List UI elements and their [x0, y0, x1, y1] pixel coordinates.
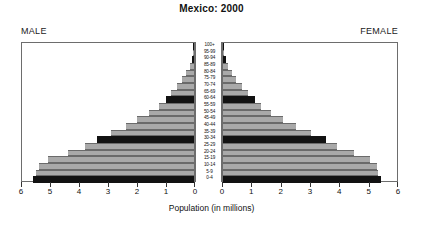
bar-row-male: [22, 103, 194, 110]
age-group-label: 40-44: [196, 122, 223, 129]
bar-male-20-24: [68, 150, 194, 157]
bar-male-15-19: [48, 156, 194, 163]
age-group-label: 75-79: [196, 75, 223, 82]
bar-row-female: [223, 70, 397, 77]
bar-row-female: [223, 76, 397, 83]
bar-female-90-94: [223, 56, 226, 63]
bar-row-male: [22, 163, 194, 170]
female-x-tick-labels: 0123456: [222, 187, 398, 201]
bar-row-female: [223, 143, 397, 150]
bar-row-male: [22, 96, 194, 103]
bar-row-male: [22, 150, 194, 157]
age-group-label: 85-89: [196, 62, 223, 69]
bar-male-95-99: [193, 50, 194, 57]
bar-male-25-29: [85, 143, 194, 150]
bar-female-50-54: [223, 110, 271, 117]
bar-row-male: [22, 130, 194, 137]
bar-female-70-74: [223, 83, 242, 90]
bar-female-65-69: [223, 90, 248, 97]
female-bars: [223, 43, 397, 181]
age-group-label: 0-4: [196, 175, 223, 182]
age-group-label: 95-99: [196, 49, 223, 56]
bar-row-male: [22, 110, 194, 117]
bar-row-female: [223, 150, 397, 157]
x-tick-label: 3: [300, 187, 320, 196]
bar-male-65-69: [171, 90, 194, 97]
female-panel-label: FEMALE: [360, 26, 398, 36]
x-tick-label: 0: [212, 187, 232, 196]
bar-row-female: [223, 96, 397, 103]
age-group-label: 100+: [196, 42, 223, 49]
bar-male-80-84: [186, 70, 194, 77]
age-group-label: 20-24: [196, 149, 223, 156]
bar-female-20-24: [223, 150, 354, 157]
x-tick-label: 0: [185, 187, 205, 196]
bar-male-40-44: [126, 123, 194, 130]
age-group-label: 15-19: [196, 155, 223, 162]
age-group-label: 65-69: [196, 89, 223, 96]
age-group-label: 60-64: [196, 95, 223, 102]
bar-female-100+: [223, 43, 224, 50]
age-group-label: 30-34: [196, 135, 223, 142]
bar-male-100+: [193, 43, 194, 50]
x-tick-label: 6: [388, 187, 408, 196]
bar-female-45-49: [223, 116, 283, 123]
bar-row-female: [223, 83, 397, 90]
bar-row-male: [22, 43, 194, 50]
bar-male-75-79: [182, 76, 194, 83]
bar-male-10-14: [39, 163, 194, 170]
bar-row-female: [223, 56, 397, 63]
bar-male-50-54: [149, 110, 194, 117]
x-axis-title: Population (in millions): [0, 203, 423, 213]
age-group-label: 5-9: [196, 169, 223, 176]
bar-row-female: [223, 123, 397, 130]
chart-title: Mexico: 2000: [0, 3, 423, 14]
age-group-label: 70-74: [196, 82, 223, 89]
bar-female-55-59: [223, 103, 261, 110]
population-pyramid-chart: Mexico: 2000 MALE FEMALE 0-45-910-1415-1…: [0, 0, 423, 229]
bar-male-90-94: [192, 56, 194, 63]
x-tick-label: 5: [40, 187, 60, 196]
x-tick-label: 5: [359, 187, 379, 196]
bar-row-male: [22, 143, 194, 150]
bar-male-30-34: [97, 136, 194, 143]
bar-row-male: [22, 156, 194, 163]
bar-male-45-49: [137, 116, 194, 123]
bar-row-female: [223, 43, 397, 50]
bar-row-male: [22, 83, 194, 90]
x-tick-label: 2: [271, 187, 291, 196]
bar-female-80-84: [223, 70, 232, 77]
bar-row-male: [22, 90, 194, 97]
bar-row-female: [223, 156, 397, 163]
bar-row-female: [223, 103, 397, 110]
bar-row-female: [223, 63, 397, 70]
bar-row-male: [22, 50, 194, 57]
x-tick-label: 4: [329, 187, 349, 196]
x-tick-label: 1: [156, 187, 176, 196]
bar-male-5-9: [36, 170, 194, 177]
x-tick-label: 2: [127, 187, 147, 196]
bar-row-female: [223, 136, 397, 143]
bar-row-male: [22, 70, 194, 77]
female-plot-panel: [222, 42, 398, 182]
x-tick-label: 3: [98, 187, 118, 196]
bar-row-male: [22, 116, 194, 123]
age-group-axis: 0-45-910-1415-1920-2425-2930-3435-3940-4…: [195, 42, 222, 182]
bar-row-female: [223, 116, 397, 123]
bar-row-male: [22, 56, 194, 63]
age-group-label: 50-54: [196, 109, 223, 116]
x-tick-label: 4: [69, 187, 89, 196]
bar-row-female: [223, 110, 397, 117]
bar-row-male: [22, 170, 194, 177]
bar-row-female: [223, 163, 397, 170]
age-group-label: 45-49: [196, 115, 223, 122]
bar-row-male: [22, 63, 194, 70]
bar-female-40-44: [223, 123, 296, 130]
bar-female-15-19: [223, 156, 370, 163]
bar-female-25-29: [223, 143, 337, 150]
bar-female-5-9: [223, 170, 378, 177]
age-group-label: 10-14: [196, 162, 223, 169]
bar-row-female: [223, 130, 397, 137]
bar-male-35-39: [111, 130, 194, 137]
x-tick-label: 6: [11, 187, 31, 196]
